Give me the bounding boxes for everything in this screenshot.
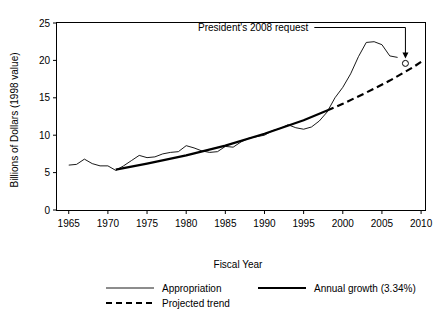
plot-frame [57, 23, 426, 211]
x-tick-label: 2000 [332, 218, 355, 229]
funding-line-chart: Billions of Dollars (1998 value) Fiscal … [0, 0, 439, 320]
legend-label: Annual growth (3.34%) [314, 283, 416, 294]
x-tick-label: 1965 [58, 218, 81, 229]
y-tick-label: 5 [44, 167, 50, 178]
chart-legend: AppropriationProjected trendAnnual growt… [106, 283, 416, 309]
series-line-projected-trend [327, 62, 421, 111]
x-tick-label: 1980 [175, 218, 198, 229]
x-tick-label: 1975 [136, 218, 159, 229]
x-tick-label: 1985 [214, 218, 237, 229]
y-tick-label: 10 [39, 130, 51, 141]
series-line-annual-growth-3-34 [116, 111, 327, 170]
x-tick-label: 2010 [410, 218, 433, 229]
series-group [69, 42, 421, 171]
y-tick-label: 15 [39, 92, 51, 103]
chart-container: Billions of Dollars (1998 value) Fiscal … [0, 0, 439, 320]
annotation-arrowhead [402, 52, 408, 58]
annotation-leader-line [314, 28, 405, 55]
y-axis-ticks: 0510152025 [39, 18, 57, 216]
x-axis-title: Fiscal Year [214, 259, 264, 270]
series-line-appropriation [69, 42, 398, 171]
presidents-request-marker [402, 60, 408, 66]
x-tick-label: 2005 [371, 218, 394, 229]
x-tick-label: 1970 [97, 218, 120, 229]
y-tick-label: 20 [39, 55, 51, 66]
y-tick-label: 25 [39, 18, 51, 29]
y-tick-label: 0 [44, 205, 50, 216]
legend-label: Projected trend [162, 298, 230, 309]
x-axis-ticks: 1965197019751980198519901995200020052010 [58, 210, 433, 229]
y-axis-title: Billions of Dollars (1998 value) [9, 52, 20, 187]
x-tick-label: 1990 [253, 218, 276, 229]
x-tick-label: 1995 [293, 218, 316, 229]
legend-label: Appropriation [162, 283, 221, 294]
annotation-label: President's 2008 request [198, 22, 309, 33]
annotations-group: President's 2008 request [198, 22, 408, 66]
